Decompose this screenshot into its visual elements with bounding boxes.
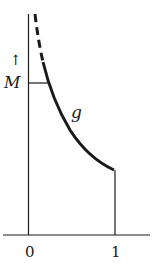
y-arrow-icon: ↑ xyxy=(10,52,22,68)
x-tick-label-1: 1 xyxy=(111,243,121,261)
labels-layer: ↑ M g 0 1 xyxy=(0,0,156,268)
y-axis-label-m: M xyxy=(3,73,21,92)
x-tick-label-0: 0 xyxy=(25,243,35,261)
curve-label-g: g xyxy=(71,102,82,122)
